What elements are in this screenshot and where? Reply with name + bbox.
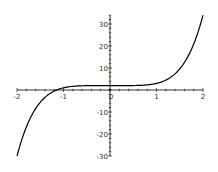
y-tick-label: -30 [97, 153, 108, 161]
x-tick-label: -1 [60, 93, 67, 101]
y-tick-label: 30 [99, 21, 108, 29]
x-tick-label: 0 [109, 93, 113, 101]
y-tick-label: 10 [99, 65, 108, 73]
x-tick-label: -2 [14, 93, 21, 101]
y-tick-label: -10 [97, 109, 108, 117]
y-tick-label: -20 [97, 131, 108, 139]
function-plot: -2-1012-30-20-10102030 [0, 0, 218, 172]
x-tick-label: 2 [201, 93, 205, 101]
x-tick-label: 1 [154, 93, 158, 101]
y-tick-label: 20 [99, 43, 108, 51]
